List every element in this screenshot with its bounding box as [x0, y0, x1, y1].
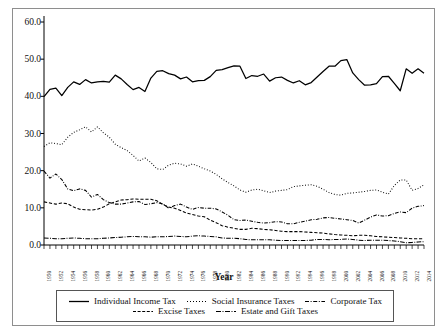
legend-item-social-insurance-taxes[interactable]: Social Insurance Taxes	[186, 296, 295, 306]
legend-item-excise-taxes[interactable]: Excise Taxes	[132, 306, 205, 316]
legend-label: Social Insurance Taxes	[212, 296, 295, 306]
chart-legend: Individual Income Tax Social Insurance T…	[56, 290, 394, 322]
legend-item-estate-and-gift-taxes[interactable]: Estate and Gift Taxes	[215, 306, 318, 316]
legend-swatch-solid-icon	[68, 297, 90, 306]
legend-row-1: Individual Income Tax Social Insurance T…	[57, 296, 393, 306]
legend-swatch-dashed-icon	[132, 307, 154, 316]
legend-swatch-dashdotdot-icon	[215, 307, 237, 316]
legend-label: Estate and Gift Taxes	[241, 306, 318, 316]
plot-canvas	[0, 0, 448, 336]
legend-label: Individual Income Tax	[94, 296, 176, 306]
legend-row-2: Excise Taxes Estate and Gift Taxes	[57, 306, 393, 316]
series-line-social-insurance-taxes	[44, 127, 424, 195]
legend-label: Corporate Tax	[330, 296, 381, 306]
legend-swatch-dashdot-icon	[304, 297, 326, 306]
legend-item-corporate-tax[interactable]: Corporate Tax	[304, 296, 381, 306]
series-line-corporate-tax	[44, 171, 424, 224]
x-axis-title: Year	[0, 272, 448, 282]
series-line-individual-income-tax	[44, 60, 424, 97]
chart-figure: 0.010.020.030.040.050.060.0 195019521954…	[0, 0, 448, 336]
legend-label: Excise Taxes	[158, 306, 205, 316]
legend-item-individual-income-tax[interactable]: Individual Income Tax	[68, 296, 176, 306]
series-line-estate-and-gift-taxes	[44, 236, 424, 243]
legend-swatch-dotted-icon	[186, 297, 208, 306]
